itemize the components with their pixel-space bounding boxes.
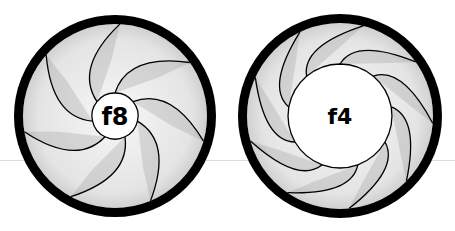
f-stop-label-f8: f8 xyxy=(101,103,128,131)
aperture-diagram: f8 f4 xyxy=(0,0,455,231)
aperture-illustration: f8 f4 xyxy=(0,0,455,231)
f-stop-label-f4: f4 xyxy=(328,104,353,129)
